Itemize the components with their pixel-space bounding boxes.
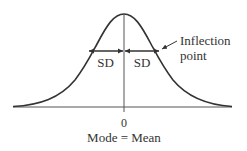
sd-left-label: SD: [97, 55, 114, 70]
normal-curve-diagram: SD SD Inflection point 0 Mode = Mean: [0, 0, 247, 151]
mode-mean-label: Mode = Mean: [87, 130, 161, 145]
sd-right-label: SD: [134, 55, 151, 70]
inflection-label-line1: Inflection: [180, 33, 231, 48]
inflection-label-line2: point: [180, 48, 207, 63]
zero-label: 0: [121, 116, 127, 130]
inflection-pointer: [162, 41, 177, 49]
